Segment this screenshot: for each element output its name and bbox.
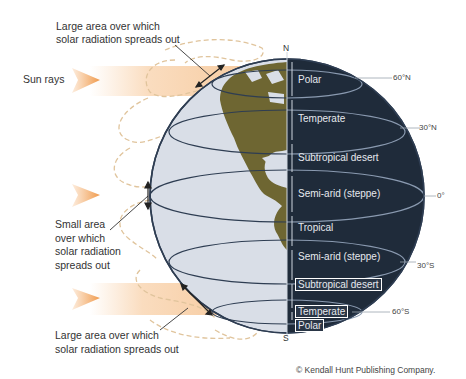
label-line: Large area over which (55, 328, 179, 342)
zone-tropical: Tropical (298, 222, 333, 233)
latitude-30s: 30°S (417, 261, 434, 270)
label-small-area: Small area over which solar radiation sp… (55, 218, 121, 272)
zone-subtropical-desert-north: Subtropical desert (298, 152, 379, 163)
latitude-60n: 60°N (393, 73, 411, 82)
label-line: Small area (55, 218, 121, 232)
sun-ray-arrow-middle (72, 184, 100, 207)
zone-polar-south: Polar (296, 320, 323, 331)
label-line: over which (55, 232, 121, 246)
label-line: solar radiation spreads out (56, 33, 180, 46)
zone-polar-north: Polar (298, 74, 321, 85)
label-large-area-bottom: Large area over which solar radiation sp… (55, 328, 179, 356)
label-large-area-top: Large area over which solar radiation sp… (56, 20, 180, 46)
diagram: Large area over which solar radiation sp… (0, 0, 466, 379)
zone-semi-arid-north: Semi-arid (steppe) (298, 188, 380, 199)
label-sun-rays: Sun rays (23, 73, 64, 86)
label-north: N (283, 43, 289, 53)
globe-illustration (0, 0, 466, 379)
label-south: S (283, 333, 289, 343)
label-line: Large area over which (56, 20, 180, 33)
latitude-equator: 0° (437, 191, 445, 200)
latitude-60s: 60°S (392, 307, 409, 316)
label-line: spreads out (55, 259, 121, 273)
zone-temperate-north: Temperate (298, 113, 345, 124)
label-line: solar radiation spreads out (55, 342, 179, 356)
latitude-30n: 30°N (419, 123, 437, 132)
label-line: solar radiation (55, 245, 121, 259)
zone-semi-arid-south: Semi-arid (steppe) (298, 251, 380, 262)
copyright-credit: © Kendall Hunt Publishing Company. (296, 365, 435, 375)
zone-subtropical-desert-south: Subtropical desert (296, 279, 381, 290)
zone-temperate-south: Temperate (296, 306, 347, 317)
